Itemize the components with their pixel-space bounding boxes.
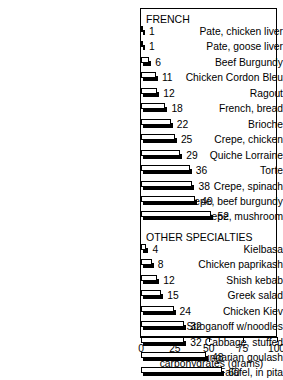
bar [141,244,150,255]
bar-value-label: 38 [198,182,209,192]
bar [141,290,165,301]
category-label: Pate, goose liver [145,42,283,52]
bar-face [141,337,184,343]
category-label: Chicken paprikash [145,260,283,270]
category-label: Kielbasa [145,245,283,255]
category-label: Greek salad [145,291,283,301]
bar-value-label: 52 [217,212,228,222]
bar-value-label: 12 [163,89,174,99]
bar-face [141,259,152,265]
bar-face [141,134,175,140]
bar-face [141,41,143,47]
bar-value-label: 6 [155,58,161,68]
category-label: Beef Burgundy [145,58,283,68]
bar-value-label: 12 [163,276,174,286]
bar [141,337,188,348]
bar [141,275,161,286]
section-header-other-specialties: OTHER SPECIALTIES [146,231,253,243]
bar [141,134,179,145]
x-tick [277,337,278,342]
bar [141,181,196,192]
bar-shadow [143,30,145,35]
bar-face [141,275,157,281]
bar-face [141,352,206,358]
bar-value-label: 11 [162,73,173,83]
bar-value-label: 1 [149,42,155,52]
bar [141,72,160,83]
bar [141,259,156,270]
x-tick [243,337,244,342]
bar-face [141,290,161,296]
bar [141,165,194,176]
bar [141,150,184,161]
bar-value-label: 1 [149,27,155,37]
bar-value-label: 8 [158,260,164,270]
bar [141,88,161,99]
x-tick [209,337,210,342]
bar-face [141,244,146,250]
bar-value-label: 60 [228,368,239,378]
bar [141,321,188,332]
x-tick-label: 100 [268,343,283,354]
bar [141,26,147,37]
bar-face [141,119,171,125]
bar-value-label: 48 [212,353,223,363]
bar [141,41,147,52]
bar-value-label: 32 [190,338,201,348]
bar-chart: CARBOHYDRATES FRENCHPate, chicken liver1… [0,0,283,380]
category-label: Pate, chicken liver [145,27,283,37]
bar [141,103,169,114]
bar [141,119,175,130]
section-header-french: FRENCH [146,13,190,25]
bar-shadow [143,45,145,50]
bar-value-label: 32 [190,322,201,332]
bar-value-label: 29 [186,151,197,161]
bar-face [141,150,180,156]
bar-face [141,103,165,109]
bar-face [141,165,190,171]
bar-face [141,26,143,32]
bar-face [141,196,195,202]
bar [141,57,153,68]
bar-value-label: 15 [167,291,178,301]
bar-face [141,72,156,78]
bar-face [141,321,184,327]
bar-value-label: 36 [196,166,207,176]
bar-value-label: 4 [152,245,158,255]
bar [141,367,226,378]
bar-face [141,306,174,312]
bar [141,211,215,222]
bar-face [141,367,222,373]
bar-value-label: 18 [171,104,182,114]
bar [141,306,178,317]
bar-value-label: 40 [201,197,212,207]
bar-face [141,211,211,217]
bar-value-label: 22 [177,120,188,130]
bar-value-label: 24 [180,307,191,317]
bar-face [141,181,192,187]
bar-face [141,57,149,63]
bar [141,196,199,207]
bar-face [141,88,157,94]
x-tick-label: 75 [237,343,248,354]
bar-value-label: 25 [181,135,192,145]
